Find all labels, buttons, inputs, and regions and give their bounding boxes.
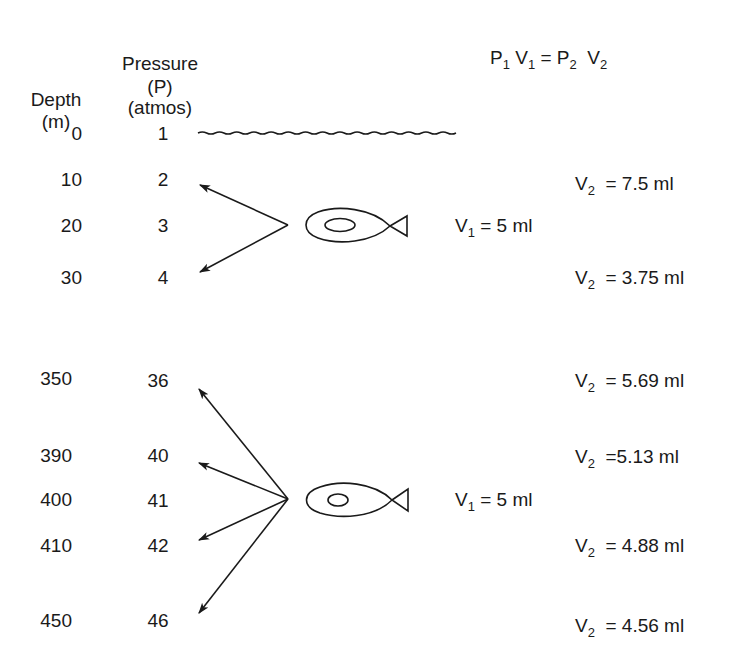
- depth-change-arrows-icon: [199, 389, 288, 613]
- fish-icon: [307, 483, 409, 516]
- diagram-artwork: [0, 0, 738, 665]
- water-surface-wave-icon: [198, 132, 456, 134]
- fish-icon: [306, 209, 407, 242]
- depth-change-arrows-icon: [200, 185, 288, 272]
